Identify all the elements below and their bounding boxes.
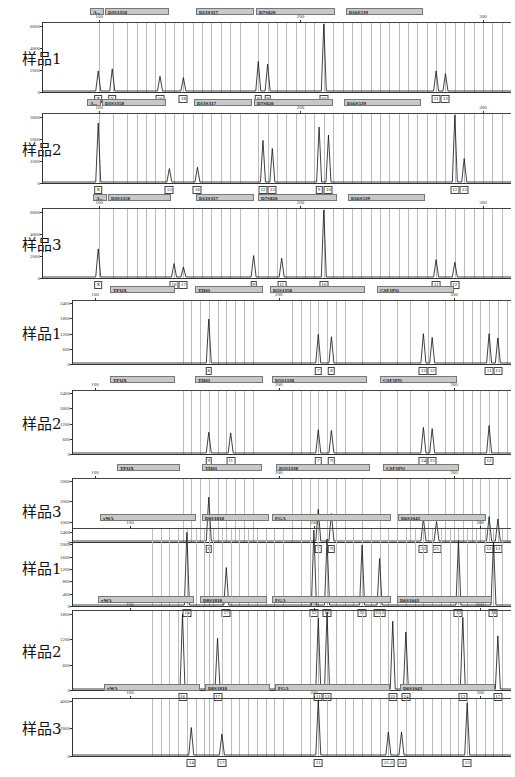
y-tick-mark bbox=[40, 278, 43, 279]
sample-panel: 样品1TPOXTH01D5S1358CSF1PO1002003000600120… bbox=[0, 282, 515, 380]
plot-area: 100200300060012001800240087812121113 bbox=[72, 300, 511, 365]
marker-label: vWA bbox=[98, 596, 194, 603]
y-tick-label: 1600 bbox=[51, 554, 70, 559]
x-tick-label: 200 bbox=[275, 382, 283, 387]
sample-panel: 样品1A...D3S1358D13S317D7S820D16S539100200… bbox=[0, 8, 515, 108]
x-tick-label: 300 bbox=[477, 690, 485, 695]
trace-line bbox=[73, 390, 511, 454]
y-tick-label: 1200 bbox=[51, 421, 70, 426]
y-tick-label: 1200 bbox=[51, 566, 70, 571]
marker-label: D3S1358 bbox=[102, 99, 166, 106]
marker-label: CSF1PO bbox=[377, 286, 454, 293]
trace-line bbox=[43, 22, 511, 92]
y-tick-mark bbox=[40, 92, 43, 93]
sample-panel: 样品2A...D3S1358D13S317D7S820D16S539100200… bbox=[0, 95, 515, 199]
marker-label: TH01 bbox=[202, 464, 262, 471]
x-tick-label: 100 bbox=[126, 690, 134, 695]
marker-label: TH01 bbox=[195, 286, 263, 293]
trace-line bbox=[73, 300, 511, 364]
y-tick-label: 4000 bbox=[21, 45, 40, 50]
x-tick-label: 300 bbox=[479, 14, 487, 19]
y-tick-label: 6000 bbox=[21, 209, 40, 214]
x-tick-label: 100 bbox=[91, 292, 99, 297]
marker-label: D8S1818 bbox=[200, 596, 267, 603]
y-tick-label: 2000 bbox=[21, 253, 40, 258]
allele-call-box: 21.2 bbox=[382, 759, 395, 767]
y-tick-label: 2000 bbox=[51, 542, 70, 547]
sample-panel: 样品3vWAD8S1818FGAD6S104310020030002000400… bbox=[0, 688, 515, 772]
y-tick-label: 1200 bbox=[51, 637, 70, 642]
y-tick-mark bbox=[40, 183, 43, 184]
sample-panel: 样品2TPOXTH01D5S1338CSF1PO1002003000600120… bbox=[0, 372, 515, 470]
trace-line bbox=[73, 610, 511, 690]
marker-label: D16S539 bbox=[348, 194, 425, 201]
plot-area: 1002003000100020003000X151612139101213 bbox=[42, 113, 511, 184]
marker-label: CSF1PO bbox=[383, 464, 459, 471]
x-tick-label: 100 bbox=[91, 470, 99, 475]
marker-label: D7S820 bbox=[256, 8, 335, 15]
y-tick-label: 3000 bbox=[21, 114, 40, 119]
x-tick-label: 300 bbox=[477, 520, 485, 525]
y-tick-label: 4000 bbox=[21, 231, 40, 236]
marker-label: D13S317 bbox=[194, 99, 252, 106]
marker-label: FGA bbox=[275, 684, 390, 691]
x-tick-label: 300 bbox=[479, 105, 487, 110]
y-tick-label: 800 bbox=[51, 579, 70, 584]
marker-label: D16S539 bbox=[344, 99, 421, 106]
x-tick-label: 300 bbox=[477, 602, 485, 607]
y-tick-label: 2400 bbox=[51, 529, 70, 534]
x-tick-label: 200 bbox=[310, 602, 318, 607]
trace-line bbox=[43, 113, 511, 183]
y-tick-label: 0 bbox=[51, 452, 70, 457]
x-tick-label: 100 bbox=[126, 602, 134, 607]
marker-label: D3S1358 bbox=[108, 194, 171, 201]
y-tick-label: 1800 bbox=[51, 612, 70, 617]
marker-label: D5S1338 bbox=[272, 376, 367, 383]
y-tick-label: 1800 bbox=[51, 316, 70, 321]
plot-area: 1002003000200040006000XY161889101112 bbox=[42, 22, 511, 93]
y-tick-label: 600 bbox=[51, 436, 70, 441]
y-tick-label: 0 bbox=[21, 276, 40, 281]
y-tick-label: 0 bbox=[21, 90, 40, 95]
y-tick-label: 400 bbox=[51, 591, 70, 596]
y-tick-label: 0 bbox=[21, 181, 40, 186]
x-tick-label: 200 bbox=[275, 470, 283, 475]
marker-label: TPOX bbox=[117, 464, 180, 471]
y-tick-label: 2000 bbox=[21, 136, 40, 141]
x-tick-label: 200 bbox=[275, 292, 283, 297]
marker-label: D13S317 bbox=[196, 8, 254, 15]
x-tick-label: 200 bbox=[310, 520, 318, 525]
trace-line bbox=[73, 698, 511, 756]
marker-label: D5S1338 bbox=[276, 464, 370, 471]
trace-line bbox=[73, 528, 511, 606]
y-tick-label: 600 bbox=[51, 662, 70, 667]
x-tick-label: 100 bbox=[126, 520, 134, 525]
y-tick-label: 1200 bbox=[51, 331, 70, 336]
x-tick-label: 200 bbox=[310, 690, 318, 695]
y-tick-label: 3000 bbox=[51, 479, 70, 484]
y-tick-label: 2400 bbox=[51, 391, 70, 396]
marker-label: D7S820 bbox=[254, 99, 333, 106]
x-tick-label: 100 bbox=[91, 382, 99, 387]
marker-label: CSF1PO bbox=[380, 376, 457, 383]
marker-label: TPOX bbox=[110, 286, 175, 293]
x-tick-label: 300 bbox=[450, 292, 458, 297]
y-tick-label: 4000 bbox=[51, 698, 70, 703]
y-tick-label: 600 bbox=[51, 346, 70, 351]
x-tick-label: 100 bbox=[95, 14, 103, 19]
sample-panel: 样品3A...D3S1358D13S317D7S820D16S539100200… bbox=[0, 190, 515, 294]
plot-area: 100200300060012001800240091179242512 bbox=[72, 390, 511, 455]
marker-label: vWA bbox=[100, 514, 196, 521]
plot-area: 1002003000200040006000X1617911101112 bbox=[42, 208, 511, 279]
marker-label: FGA bbox=[272, 596, 391, 603]
y-tick-mark bbox=[70, 364, 73, 365]
marker-label: FGA bbox=[272, 514, 391, 521]
x-tick-label: 200 bbox=[297, 200, 305, 205]
x-tick-label: 200 bbox=[297, 14, 305, 19]
marker-label: D3S1358 bbox=[105, 8, 169, 15]
x-tick-label: 300 bbox=[450, 470, 458, 475]
trace-line bbox=[43, 208, 511, 278]
marker-label: D8S1818 bbox=[205, 684, 270, 691]
allele-call-box: 11 bbox=[314, 759, 323, 767]
x-tick-label: 200 bbox=[297, 105, 305, 110]
